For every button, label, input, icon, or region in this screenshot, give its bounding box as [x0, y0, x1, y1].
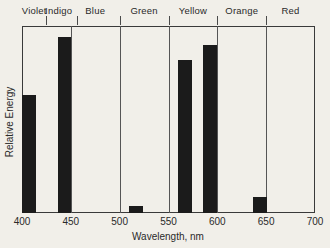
region-label-orange: Orange — [225, 5, 258, 16]
spectral-bar — [22, 95, 36, 213]
x-tick-label: 600 — [209, 216, 226, 227]
region-label-violet: Violet — [22, 5, 47, 16]
region-label-indigo: Indigo — [45, 5, 72, 16]
region-label-yellow: Yellow — [179, 5, 207, 16]
y-axis-label: Relative Energy — [4, 87, 15, 158]
region-label-blue: Blue — [85, 5, 105, 16]
region-boundary-line — [169, 26, 170, 213]
region-label-green: Green — [130, 5, 157, 16]
spectral-bar — [58, 37, 71, 213]
region-separator-tick — [46, 16, 47, 25]
region-boundary-line — [217, 26, 218, 213]
region-boundary-line — [71, 26, 72, 213]
x-tick-label: 450 — [62, 216, 79, 227]
region-separator-tick — [217, 16, 218, 25]
x-axis-label: Wavelength, nm — [132, 231, 204, 242]
x-tick-label: 550 — [160, 216, 177, 227]
x-tick-label: 700 — [307, 216, 324, 227]
region-separator-tick — [266, 16, 267, 25]
spectral-bar — [178, 60, 192, 213]
region-label-red: Red — [282, 5, 300, 16]
region-boundary-line — [266, 26, 267, 213]
region-separator-tick — [120, 16, 121, 25]
x-tick-label: 400 — [14, 216, 31, 227]
spectral-bar — [253, 197, 267, 213]
x-tick-label: 650 — [258, 216, 275, 227]
region-separator-tick — [77, 16, 78, 25]
spectral-bar — [203, 45, 218, 213]
spectral-bar — [129, 206, 143, 213]
region-separator-tick — [169, 16, 170, 25]
region-boundary-line — [120, 26, 121, 213]
spectrum-bar-chart: Relative Energy Wavelength, nm VioletInd… — [0, 0, 330, 248]
x-tick-label: 500 — [111, 216, 128, 227]
